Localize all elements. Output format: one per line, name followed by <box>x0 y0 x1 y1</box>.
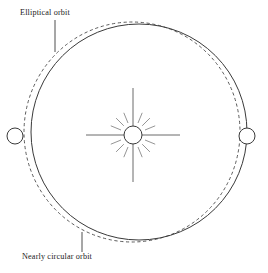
orbit-diagram-canvas <box>0 0 268 273</box>
orbit-diagram-figure: Elliptical orbit Nearly circular orbit <box>0 0 268 273</box>
planet-left-icon <box>7 128 23 144</box>
nearly-circular-orbit-label: Nearly circular orbit <box>22 252 92 262</box>
elliptical-orbit-label: Elliptical orbit <box>20 8 70 18</box>
sun-icon <box>124 126 142 144</box>
planet-right-icon <box>239 128 255 144</box>
